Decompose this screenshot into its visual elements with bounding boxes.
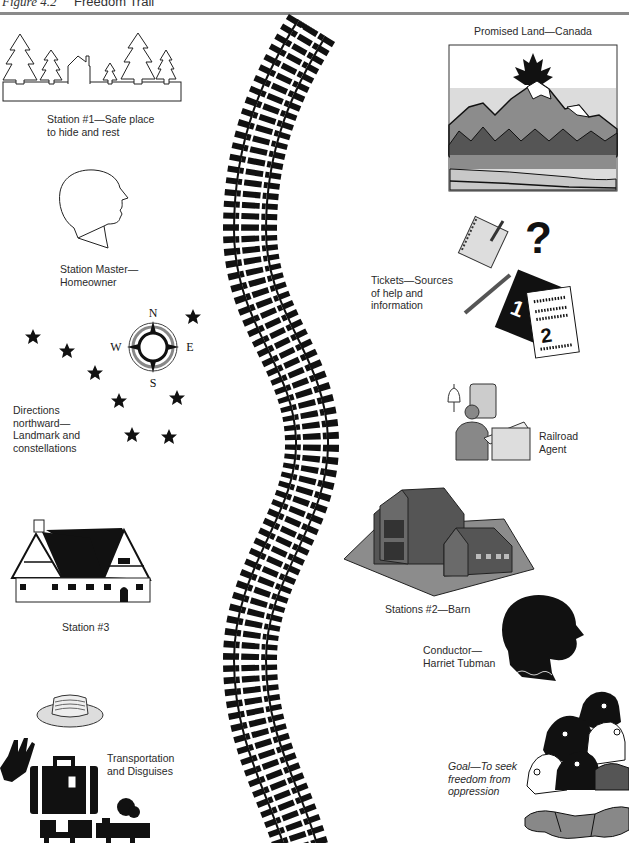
railroad-agent-label: Railroad Agent [539,430,578,455]
station3-label: Station #3 [62,621,109,634]
station-master-label: Station Master— Homeowner [60,263,138,288]
station2-label: Stations #2—Barn [385,603,470,616]
star-icon [111,393,127,408]
star-icon [25,329,41,344]
svg-text:N: N [149,306,158,320]
canada-mountains-icon [449,45,617,191]
star-icon [124,427,140,442]
station1-label: Station #1—Safe place to hide and rest [47,113,154,138]
agent-at-desk-icon [440,384,532,460]
svg-text:W: W [110,340,122,354]
svg-text:?: ? [525,213,552,262]
trees-and-house-icon [2,28,182,103]
star-icon [169,390,185,405]
promised-land-label: Promised Land—Canada [474,25,592,38]
star-icon [87,365,103,380]
compass-rose: N S E W [110,306,193,390]
hand-icon [0,738,35,782]
tickets-label: Tickets—Sources of help and information [371,274,453,312]
barn-icon [344,484,534,599]
head-silhouette-icon [500,593,586,683]
transport-label: Transportation and Disguises [107,752,174,777]
star-icon [59,343,75,358]
notebook-tickets-icon: ? 1 2 [455,213,590,361]
head-outline-icon [56,168,136,250]
star-icon [161,429,177,444]
faces-handshake-icon [525,690,629,843]
conductor-label: Conductor— Harriet Tubman [423,644,495,669]
goal-label: Goal—To seek freedom from oppression [448,760,517,798]
directions-label: Directions northward— Landmark and const… [13,404,80,454]
star-icon [185,309,201,324]
svg-text:S: S [150,376,157,390]
svg-text:E: E [186,340,193,354]
tudor-house-icon [12,520,157,610]
